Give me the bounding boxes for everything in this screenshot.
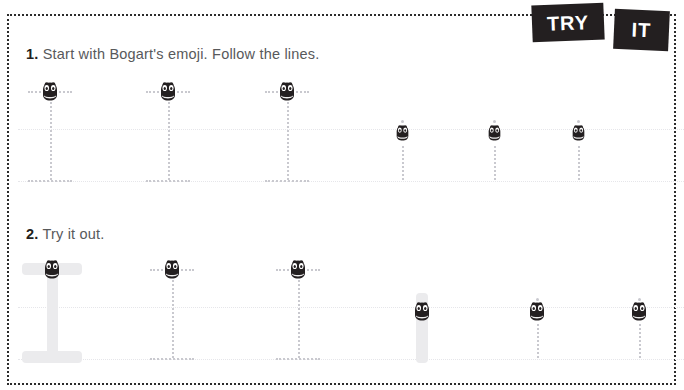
it-badge-label: IT <box>631 20 652 41</box>
trace-guide-stem <box>172 276 174 358</box>
step-1-number: 1. <box>26 46 39 62</box>
bogart-emoji <box>395 125 410 141</box>
bogart-emoji <box>630 302 648 321</box>
bogart-emoji <box>159 82 177 101</box>
step-2-heading: 2. Try it out. <box>26 226 105 242</box>
step-1-heading: 1. Start with Bogart's emoji. Follow the… <box>26 46 319 62</box>
trace-guide-bottom-bar <box>28 180 72 182</box>
step-2-number: 2. <box>26 226 39 242</box>
guide-rule <box>18 181 684 182</box>
guide-rule <box>18 307 684 308</box>
try-badge: TRY <box>531 3 604 43</box>
trace-guide-bottom-bar <box>146 180 190 182</box>
it-badge: IT <box>613 9 670 51</box>
worksheet-sheet <box>7 14 676 385</box>
bogart-emoji <box>528 302 546 321</box>
trace-guide-stem <box>578 146 580 180</box>
trace-guide-stem <box>639 324 641 358</box>
step-1-text: Start with Bogart's emoji. Follow the li… <box>43 46 320 62</box>
trace-guide-stem <box>298 276 300 358</box>
bogart-emoji <box>41 82 59 101</box>
bogart-emoji <box>413 302 431 321</box>
trace-guide-stem <box>287 98 289 180</box>
trace-guide-tittle <box>577 120 580 123</box>
bogart-emoji <box>43 260 61 279</box>
bogart-emoji <box>278 82 296 101</box>
ink-stroke-stem <box>47 265 58 362</box>
trace-guide-stem <box>402 146 404 180</box>
trace-guide-tittle <box>493 120 496 123</box>
trace-guide-stem <box>494 146 496 180</box>
bogart-emoji <box>571 125 586 141</box>
trace-guide-bottom-bar <box>265 180 309 182</box>
trace-guide-bottom-bar <box>150 358 194 360</box>
trace-guide-stem <box>168 98 170 180</box>
try-badge-label: TRY <box>546 12 589 34</box>
step-2-text: Try it out. <box>42 226 104 242</box>
trace-guide-bottom-bar <box>276 358 320 360</box>
guide-rule <box>18 359 684 360</box>
trace-guide-tittle <box>401 120 404 123</box>
bogart-emoji <box>163 260 181 279</box>
bogart-emoji <box>487 125 502 141</box>
trace-guide-stem <box>537 324 539 358</box>
bogart-emoji <box>289 260 307 279</box>
trace-guide-stem <box>50 98 52 180</box>
